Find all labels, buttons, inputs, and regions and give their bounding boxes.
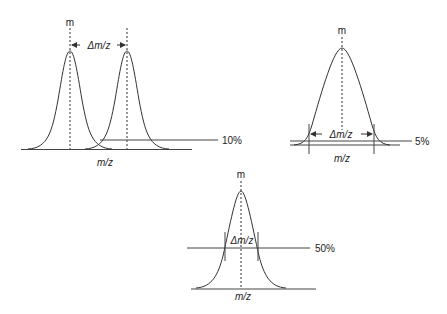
peak-label: m: [338, 25, 346, 36]
resolution-definitions-diagram: m Δm/z 10% m/z m Δm/z 5% m/z m Δm/z 50% …: [0, 0, 447, 314]
delta-label: Δm/z: [329, 129, 353, 140]
peak-label: m: [237, 169, 245, 180]
axis-label: m/z: [97, 157, 113, 168]
delta-label: Δm/z: [87, 40, 111, 51]
threshold-label: 10%: [222, 135, 242, 146]
peak-label: m: [66, 17, 74, 28]
threshold-label: 50%: [315, 243, 335, 254]
axis-label: m/z: [334, 153, 350, 164]
single-peak-50-percent-diagram: m Δm/z 50% m/z: [187, 169, 335, 302]
single-peak-5-percent-diagram: m Δm/z 5% m/z: [290, 25, 430, 164]
delta-label: Δm/z: [230, 235, 254, 246]
two-peak-10-percent-valley-diagram: m Δm/z 10% m/z: [21, 17, 242, 168]
threshold-label: 5%: [415, 136, 430, 147]
axis-label: m/z: [235, 291, 251, 302]
